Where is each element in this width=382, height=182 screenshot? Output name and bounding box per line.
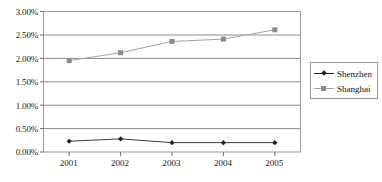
square-marker-icon [272,27,277,32]
legend-label: Shenzhen [337,69,372,79]
legend-label: Shanghai [337,84,371,94]
square-marker-icon [321,86,326,91]
legend-swatch-shenzhen [314,69,334,79]
x-tick-label: 2004 [197,158,248,168]
line-chart: 3.00% 2.50% 2.00% 1.50% 1.00% 0.50% 0.00… [0,0,382,182]
legend: Shenzhen Shanghai [310,62,378,99]
x-tick-label: 2003 [146,158,197,168]
square-marker-icon [221,37,226,42]
x-tick-label: 2001 [43,158,94,168]
x-tick-label: 2005 [249,158,300,168]
x-tick-label: 2002 [94,158,145,168]
square-marker-icon [170,39,175,44]
legend-item-shanghai[interactable]: Shanghai [314,81,375,96]
x-axis-tick-labels: 2001 2002 2003 2004 2005 [43,158,301,172]
diamond-marker-icon [321,70,327,76]
y-axis-ticks [40,12,44,153]
square-marker-icon [67,58,72,63]
legend-item-shenzhen[interactable]: Shenzhen [314,66,375,81]
x-axis-ticks [69,152,275,156]
legend-swatch-shanghai [314,84,334,94]
square-marker-icon [118,50,123,55]
